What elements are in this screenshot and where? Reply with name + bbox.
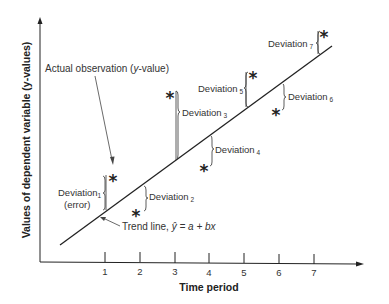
arrowhead-icon xyxy=(110,157,115,166)
observation-point: * xyxy=(166,88,175,108)
trend-line-arrow xyxy=(103,218,120,226)
actual-observation-arrow xyxy=(95,76,112,160)
actual-observation-label: Actual observation (y-value) xyxy=(45,63,169,74)
deviation-4-label: Deviation4 xyxy=(215,144,261,156)
observation-point: * xyxy=(272,105,281,125)
tick-label: 5 xyxy=(241,267,246,278)
observations: * * * * * * * xyxy=(109,27,329,226)
x-axis xyxy=(40,262,357,264)
deviation-6-label: Deviation6 xyxy=(288,91,334,103)
deviation-7-label: Deviation7 xyxy=(268,38,314,50)
deviation-3-label: Deviation3 xyxy=(182,107,228,119)
tick-label: 2 xyxy=(137,266,142,277)
tick-label: 1 xyxy=(102,266,107,277)
deviation-lines xyxy=(103,31,320,211)
tick-label: 3 xyxy=(172,266,177,277)
tick-label: 4 xyxy=(206,267,211,278)
y-axis-arrow-icon xyxy=(38,17,43,24)
observation-point: * xyxy=(320,27,329,47)
x-axis-arrow-icon xyxy=(356,262,364,267)
trend-line-label: Trend line, ŷ = a + bx xyxy=(122,221,217,232)
deviation-1-error: (error) xyxy=(64,199,90,210)
tick-label: 6 xyxy=(276,267,281,278)
tick-label: 7 xyxy=(311,267,316,278)
deviation-2-label: Deviation2 xyxy=(149,191,195,203)
observation-point: * xyxy=(109,171,118,191)
x-tick-labels: 1 2 3 4 5 6 7 xyxy=(102,266,316,278)
deviation-1-label: Deviation1 xyxy=(58,187,102,199)
observation-point: * xyxy=(249,68,258,88)
regression-diagram: 1 2 3 4 5 6 7 Time period Values of depe… xyxy=(0,0,389,304)
deviation-5-label: Deviation5 xyxy=(198,83,244,95)
trend-line xyxy=(60,46,332,245)
y-axis-title: Values of dependent variable (y-values) xyxy=(20,42,32,239)
x-axis-title: Time period xyxy=(179,281,238,293)
observation-point: * xyxy=(200,161,209,181)
